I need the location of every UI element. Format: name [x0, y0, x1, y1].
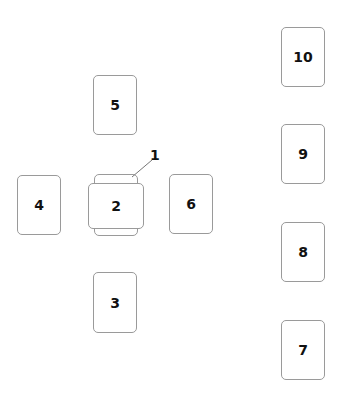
card-10: 10: [281, 27, 325, 87]
card-9: 9: [281, 124, 325, 184]
card-6-number: 6: [186, 197, 196, 211]
card-2: 2: [88, 183, 144, 229]
card-5-number: 5: [110, 98, 120, 112]
card-1-callout-label: 1: [150, 148, 160, 162]
card-4: 4: [17, 175, 61, 235]
card-7: 7: [281, 320, 325, 380]
card-5: 5: [93, 75, 137, 135]
card-7-number: 7: [298, 343, 308, 357]
card-2-number: 2: [111, 199, 121, 213]
card-6: 6: [169, 174, 213, 234]
card-10-number: 10: [293, 50, 312, 64]
card-3-number: 3: [110, 296, 120, 310]
card-8: 8: [281, 222, 325, 282]
card-3: 3: [93, 272, 137, 333]
card-8-number: 8: [298, 245, 308, 259]
card-4-number: 4: [34, 198, 44, 212]
card-9-number: 9: [298, 147, 308, 161]
